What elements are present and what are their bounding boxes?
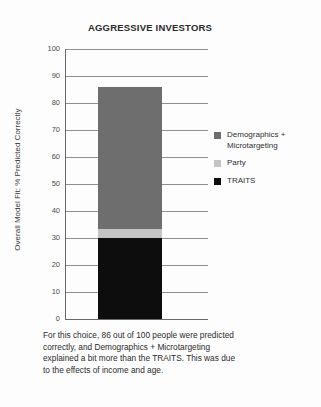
y-tick-50: 50 [34, 180, 60, 188]
bar-segment[interactable] [98, 87, 162, 229]
legend-item[interactable]: Demographics + Microtargeting [214, 130, 318, 151]
legend-swatch-icon [214, 178, 221, 185]
x-axis-line [65, 319, 208, 320]
legend-item-label: TRAITS [227, 176, 255, 187]
stacked-bar[interactable] [98, 87, 162, 319]
y-tick-80: 80 [34, 99, 60, 107]
y-tick-40: 40 [34, 207, 60, 215]
chart-caption: For this choice, 86 out of 100 people we… [43, 330, 235, 376]
y-axis-label: Overall Model Fit: % Predicted Correctly [13, 80, 22, 280]
y-tick-30: 30 [34, 234, 60, 242]
gridline-100 [65, 49, 208, 50]
legend-item-label: Party [227, 158, 246, 169]
y-tick-10: 10 [34, 288, 60, 296]
plot-area [65, 49, 208, 319]
y-tick-60: 60 [34, 153, 60, 161]
y-axis-line [65, 49, 66, 320]
y-axis-tick-labels: 1009080706050403020100 [30, 49, 60, 320]
gridline-90 [65, 76, 208, 77]
y-tick-20: 20 [34, 261, 60, 269]
chart-legend: Demographics + MicrotargetingPartyTRAITS [214, 130, 318, 193]
legend-item[interactable]: TRAITS [214, 176, 318, 187]
y-tick-90: 90 [34, 72, 60, 80]
legend-swatch-icon [214, 132, 221, 139]
bar-segment[interactable] [98, 238, 162, 319]
chart-title: AGGRESSIVE INVESTORS [60, 22, 240, 33]
chart-page: AGGRESSIVE INVESTORS Overall Model Fit: … [0, 0, 321, 407]
y-tick-100: 100 [34, 45, 60, 53]
y-tick-0: 0 [34, 315, 60, 323]
legend-item-label: Demographics + Microtargeting [227, 130, 318, 151]
y-tick-70: 70 [34, 126, 60, 134]
legend-item[interactable]: Party [214, 158, 318, 169]
legend-swatch-icon [214, 160, 221, 167]
bar-segment[interactable] [98, 229, 162, 238]
